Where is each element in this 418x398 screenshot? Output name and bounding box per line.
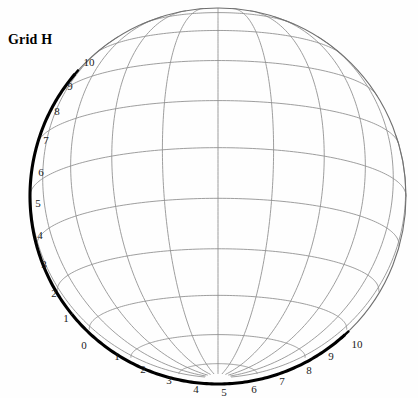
- bottom-limb-scale-label: 10: [352, 339, 363, 350]
- page-title: Grid H: [8, 32, 52, 48]
- figure-canvas: Grid H 01234567891012345678910: [0, 0, 418, 398]
- left-limb-scale-label: 3: [41, 259, 47, 270]
- left-limb-scale-label: 1: [63, 313, 69, 324]
- meridian-line: [162, 9, 214, 374]
- bottom-limb-scale-label: 3: [166, 375, 172, 386]
- bottom-scale-end-tick-icon: [341, 331, 349, 338]
- left-limb-scale-label: 8: [54, 106, 60, 117]
- left-limb-scale-label: 4: [37, 230, 43, 241]
- left-limb-scale-label: 2: [51, 288, 57, 299]
- meridian-line: [222, 9, 274, 374]
- left-limb-scale-label: 6: [38, 167, 44, 178]
- bottom-limb-scale-label: 5: [221, 387, 227, 398]
- left-limb-scale-label: 7: [43, 135, 49, 146]
- left-limb-scale-label: 10: [84, 57, 95, 68]
- bottom-limb-scale-label: 8: [306, 365, 312, 376]
- meridian-line: [230, 37, 393, 376]
- bottom-limb-scale-label: 4: [193, 384, 199, 395]
- bottom-limb-scale-label: 1: [114, 351, 120, 362]
- bottom-limb-scale-label: 9: [328, 351, 334, 362]
- bottom-limb-scale-label: 7: [279, 376, 285, 387]
- left-limb-scale-label: 9: [67, 81, 73, 92]
- bottom-limb-scale-label: 6: [251, 384, 257, 395]
- bottom-limb-scale-label: 2: [140, 364, 146, 375]
- left-limb-scale-label: 0: [81, 340, 87, 351]
- left-limb-scale-label: 5: [35, 198, 41, 209]
